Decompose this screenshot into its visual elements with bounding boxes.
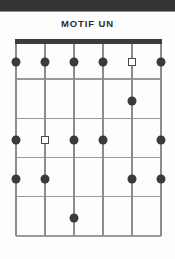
filled-dot-marker-r1s1 (12, 58, 21, 67)
fret-line-5 (16, 235, 161, 236)
filled-dot-marker-r1s3 (70, 58, 79, 67)
filled-dot-marker-r4s1 (12, 175, 21, 184)
filled-dot-marker-r5s3 (70, 214, 79, 223)
string-line-5 (131, 39, 133, 236)
scan-edge-line (0, 11, 175, 12)
nut-bar (15, 39, 162, 44)
scan-edge-band (0, 0, 175, 11)
fret-line-4 (16, 196, 161, 197)
fret-line-1 (16, 78, 161, 79)
filled-dot-marker-r4s6 (157, 175, 166, 184)
page-title: MOTIF UN (0, 18, 175, 29)
filled-dot-marker-r1s4 (99, 58, 108, 67)
fret-line-2 (16, 118, 161, 119)
filled-dot-marker-r3s6 (157, 136, 166, 145)
open-square-marker-r3s2 (41, 136, 49, 144)
filled-dot-marker-r3s1 (12, 136, 21, 145)
open-square-marker-r1s5 (128, 58, 136, 66)
filled-dot-marker-r4s5 (128, 175, 137, 184)
filled-dot-marker-r2s5 (128, 97, 137, 106)
filled-dot-marker-r4s2 (41, 175, 50, 184)
filled-dot-marker-r3s4 (99, 136, 108, 145)
fret-line-3 (16, 157, 161, 158)
filled-dot-marker-r1s2 (41, 58, 50, 67)
filled-dot-marker-r3s3 (70, 136, 79, 145)
page-canvas: MOTIF UN (0, 0, 175, 259)
fretboard-diagram (16, 39, 161, 236)
filled-dot-marker-r1s6 (157, 58, 166, 67)
